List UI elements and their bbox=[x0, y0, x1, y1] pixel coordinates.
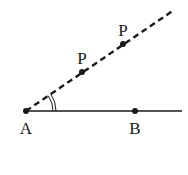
point-p2 bbox=[120, 41, 126, 47]
point-b bbox=[132, 108, 138, 114]
label-b: B bbox=[129, 119, 140, 138]
dashed-ray-ap bbox=[26, 10, 174, 111]
point-a bbox=[23, 108, 29, 114]
angle-arc-inner bbox=[48, 96, 53, 111]
point-p1 bbox=[79, 69, 85, 75]
geometry-diagram: A B P P bbox=[0, 0, 188, 175]
label-a: A bbox=[20, 119, 33, 138]
label-p2: P bbox=[118, 21, 127, 40]
label-p1: P bbox=[77, 49, 86, 68]
